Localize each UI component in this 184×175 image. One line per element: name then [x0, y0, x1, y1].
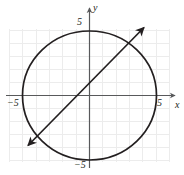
graph-figure: 5 −5 −5 5 y x [0, 0, 184, 175]
y-axis-tick-label-positive: 5 [77, 17, 82, 27]
x-axis-name-label: x [175, 100, 179, 110]
coordinate-plane-svg [0, 0, 184, 175]
axes [6, 8, 175, 168]
line-curve [28, 28, 144, 146]
y-axis-name-label: y [93, 3, 97, 13]
x-axis-tick-label-negative: −5 [7, 98, 19, 108]
x-axis-tick-label-positive: 5 [157, 98, 162, 108]
y-axis-tick-label-negative: −5 [74, 160, 86, 170]
